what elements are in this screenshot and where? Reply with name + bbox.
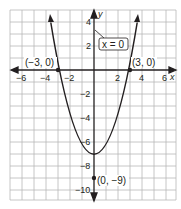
y-tick: −4: [80, 113, 90, 123]
point-vertex: [92, 176, 96, 180]
x-tick: 6: [162, 73, 167, 83]
curve-left-arrow-icon: [48, 14, 54, 22]
point-label-vertex: (0, −9): [97, 175, 126, 186]
x-tick: −6: [16, 73, 26, 83]
point-3-0: [128, 68, 132, 72]
y-axis-label: y: [97, 9, 103, 19]
y-axis-up-arrow-icon: [91, 10, 97, 18]
x-tick: 4: [139, 73, 144, 83]
y-tick: 2: [86, 41, 91, 51]
y-tick: −2: [80, 89, 90, 99]
x-tick: 2: [115, 73, 120, 83]
y-tick: 4: [86, 17, 91, 27]
curve-right-arrow-icon: [134, 14, 140, 22]
point-label-left: (−3, 0): [25, 57, 54, 68]
axes: [11, 10, 176, 201]
parabola-graph: (−3, 0) (3, 0) (0, −9) x = 0 y x −6 −4 −…: [0, 0, 181, 209]
x-tick: −2: [64, 73, 74, 83]
grid: [10, 10, 176, 200]
point-label-right: (3, 0): [132, 57, 155, 68]
x-tick: −4: [40, 73, 50, 83]
y-tick: −8: [80, 161, 90, 171]
axis-symmetry-label: x = 0: [102, 39, 124, 50]
y-tick: −6: [80, 137, 90, 147]
point-neg3-0: [56, 68, 60, 72]
x-axis-label: x: [169, 72, 175, 82]
y-tick: −10: [75, 185, 90, 195]
